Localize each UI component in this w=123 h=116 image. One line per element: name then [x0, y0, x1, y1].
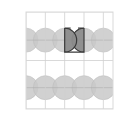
geometry-figure — [0, 0, 123, 116]
figure-container — [0, 0, 123, 116]
